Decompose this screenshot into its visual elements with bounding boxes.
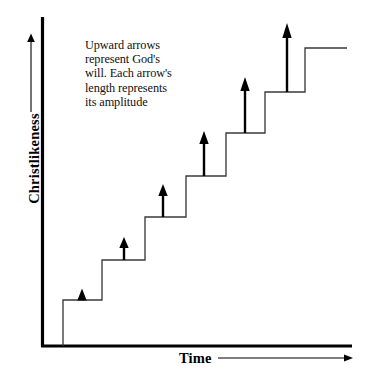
figure-canvas <box>0 0 388 379</box>
annotation-text: Upward arrows represent God's will. Each… <box>85 38 189 109</box>
x-axis-label: Time <box>179 350 212 367</box>
christlikeness-staircase-figure <box>0 0 388 379</box>
figure-background <box>0 0 388 379</box>
y-axis-label: Christlikeness <box>26 79 43 239</box>
